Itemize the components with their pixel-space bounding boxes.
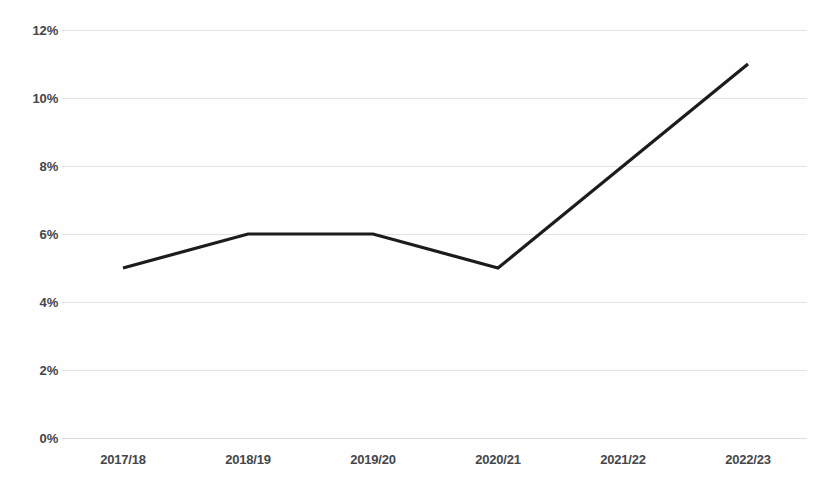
y-tick-label: 10% xyxy=(0,91,58,106)
y-tick-label: 2% xyxy=(0,363,58,378)
x-tick-label: 2020/21 xyxy=(475,452,521,467)
y-tick-label: 8% xyxy=(0,159,58,174)
line-chart: 0%2%4%6%8%10%12% 2017/182018/192019/2020… xyxy=(0,0,820,488)
gridline-0% xyxy=(62,438,807,439)
y-tick-label: 0% xyxy=(0,431,58,446)
x-tick-label: 2021/22 xyxy=(600,452,646,467)
plot-area xyxy=(62,30,807,438)
x-axis: 2017/182018/192019/202020/212021/222022/… xyxy=(62,452,807,476)
y-tick-label: 6% xyxy=(0,227,58,242)
x-tick-label: 2018/19 xyxy=(225,452,271,467)
x-tick-label: 2019/20 xyxy=(350,452,396,467)
y-tick-label: 12% xyxy=(0,23,58,38)
series-layer xyxy=(62,30,807,438)
x-tick-label: 2022/23 xyxy=(725,452,771,467)
y-axis: 0%2%4%6%8%10%12% xyxy=(0,30,58,438)
y-tick-label: 4% xyxy=(0,295,58,310)
x-tick-label: 2017/18 xyxy=(100,452,146,467)
series-line-0 xyxy=(123,64,748,268)
